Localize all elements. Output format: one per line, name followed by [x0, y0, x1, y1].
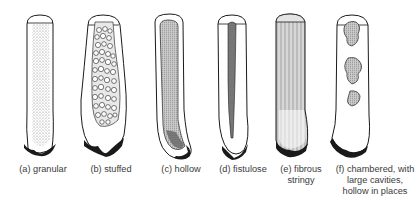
- caption-e-fibrous: (e) fibrous stringy: [271, 164, 331, 186]
- caption-a-granular: (a) granular: [12, 164, 74, 175]
- caption-f-line-2: large cavities,: [330, 175, 417, 186]
- caption-f-line-3: hollow in places: [330, 186, 417, 197]
- stem-b-stuffed: [81, 15, 126, 157]
- stem-c-hollow: [155, 14, 191, 160]
- stem-types-diagram: (a) granular (b) stuffed (c) hollow (d) …: [0, 0, 417, 206]
- stem-a-granular: [24, 15, 56, 156]
- caption-c-hollow: (c) hollow: [153, 164, 209, 175]
- caption-d-fistulose: (d) fistulose: [210, 164, 276, 175]
- caption-e-line-2: stringy: [271, 175, 331, 186]
- stem-d-fistulose: [218, 15, 248, 160]
- caption-f-chambered: (f) chambered, with large cavities, holl…: [330, 164, 417, 197]
- caption-b-stuffed: (b) stuffed: [83, 164, 139, 175]
- caption-e-line-1: (e) fibrous: [271, 164, 331, 175]
- stem-e-fibrous: [276, 14, 308, 157]
- stem-f-chambered: [330, 15, 370, 158]
- caption-f-line-1: (f) chambered, with: [330, 164, 417, 175]
